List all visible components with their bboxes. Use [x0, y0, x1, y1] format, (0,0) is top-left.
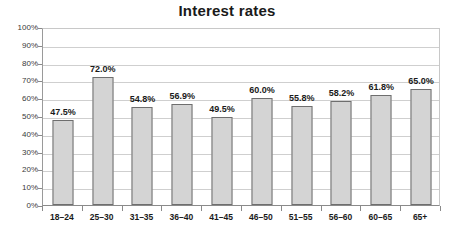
bar-slot: 60.0% [242, 29, 282, 205]
bar-value-label: 55.8% [289, 94, 315, 103]
bar-value-label: 47.5% [50, 108, 76, 117]
x-axis-tick-mark [241, 206, 242, 211]
bar[interactable] [291, 106, 312, 205]
bar[interactable] [92, 77, 113, 205]
bar[interactable] [331, 101, 352, 205]
bar-chart: Interest rates 0%10%20%30%40%50%60%70%80… [0, 0, 454, 235]
bar-slot: 61.8% [361, 29, 401, 205]
x-axis-tick-label: 56–60 [329, 213, 353, 222]
bar[interactable] [251, 98, 272, 205]
y-axis-tick-label: 0% [4, 202, 38, 210]
y-axis-tick-label: 100% [4, 24, 38, 32]
y-axis-tick-label: 30% [4, 149, 38, 157]
x-axis-tick-mark [440, 206, 441, 211]
x-axis-tick-label: 25–30 [90, 213, 114, 222]
x-axis-tick-mark [122, 206, 123, 211]
y-axis-tick-label: 70% [4, 77, 38, 85]
bar-value-label: 65.0% [408, 77, 434, 86]
bar[interactable] [411, 89, 432, 205]
plot-area: 47.5%72.0%54.8%56.9%49.5%60.0%55.8%58.2%… [42, 28, 440, 206]
x-axis-tick-mark [321, 206, 322, 211]
x-axis-tick-mark [42, 206, 43, 211]
x-axis-tick-mark [161, 206, 162, 211]
bar-slot: 54.8% [123, 29, 163, 205]
bar-slot: 65.0% [401, 29, 441, 205]
y-axis-tick-label: 40% [4, 131, 38, 139]
x-axis-tick-label: 18–24 [50, 213, 74, 222]
bar-slot: 47.5% [43, 29, 83, 205]
x-axis-tick-mark [400, 206, 401, 211]
x-axis-tick-label: 36–40 [169, 213, 193, 222]
x-axis-tick-mark [281, 206, 282, 211]
bar-value-label: 56.9% [170, 92, 196, 101]
bar[interactable] [52, 120, 73, 205]
x-axis-tick-label: 65+ [413, 213, 427, 222]
bar-value-label: 60.0% [249, 86, 275, 95]
x-axis-tick-label: 41–45 [209, 213, 233, 222]
bar-slot: 72.0% [83, 29, 123, 205]
bar[interactable] [212, 117, 233, 205]
y-axis-tick-label: 10% [4, 184, 38, 192]
y-axis: 0%10%20%30%40%50%60%70%80%90%100% [0, 28, 42, 206]
bar-value-label: 58.2% [329, 89, 355, 98]
bar-value-label: 61.8% [369, 83, 395, 92]
bar[interactable] [172, 104, 193, 205]
y-axis-tick-label: 60% [4, 95, 38, 103]
x-axis-tick-mark [360, 206, 361, 211]
y-axis-tick-label: 20% [4, 166, 38, 174]
bar-slot: 56.9% [162, 29, 202, 205]
bar-slot: 55.8% [282, 29, 322, 205]
chart-title: Interest rates [0, 2, 454, 19]
bar-value-label: 54.8% [130, 95, 156, 104]
x-axis-tick-mark [201, 206, 202, 211]
bar-value-label: 49.5% [209, 105, 235, 114]
x-axis-tick-label: 31–35 [130, 213, 154, 222]
bar[interactable] [371, 95, 392, 205]
y-axis-tick-label: 80% [4, 60, 38, 68]
y-axis-tick-label: 50% [4, 113, 38, 121]
y-axis-tick-label: 90% [4, 42, 38, 50]
x-axis-tick-label: 60–65 [368, 213, 392, 222]
x-axis: 18–2425–3031–3536–4041–4546–5051–5556–60… [42, 206, 440, 235]
x-axis-tick-mark [82, 206, 83, 211]
bar[interactable] [132, 107, 153, 205]
x-axis-tick-label: 51–55 [289, 213, 313, 222]
bar-value-label: 72.0% [90, 65, 116, 74]
bar-slot: 49.5% [202, 29, 242, 205]
bar-slot: 58.2% [322, 29, 362, 205]
x-axis-tick-label: 46–50 [249, 213, 273, 222]
